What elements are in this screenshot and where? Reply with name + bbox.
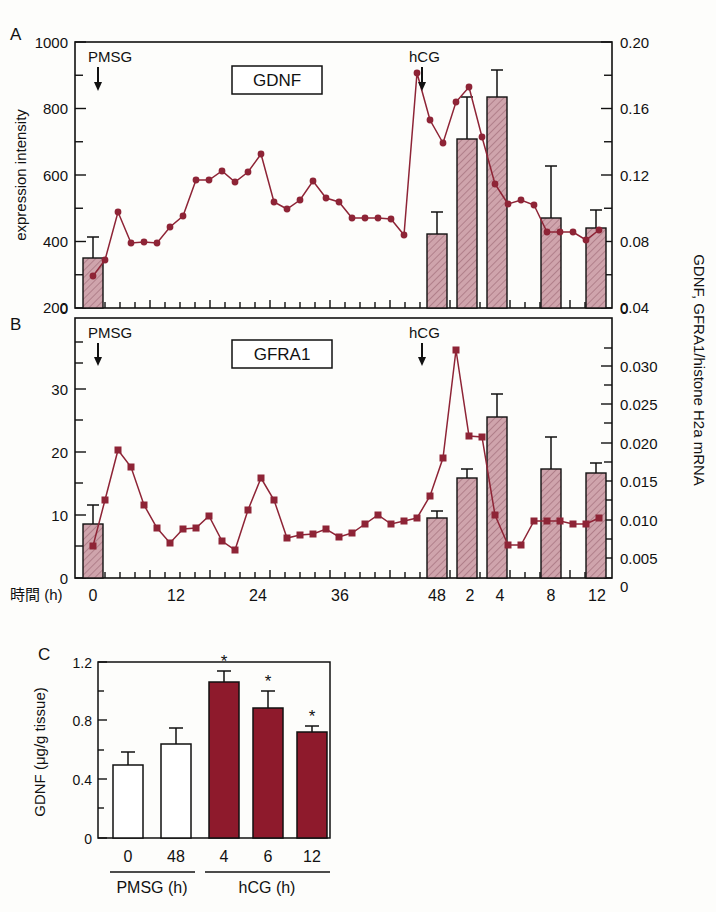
panel-b-ytick-30: 30 (51, 381, 68, 398)
xtick-12: 12 (167, 587, 185, 604)
panel-a-ytick-400: 400 (43, 233, 68, 250)
panel-c-group-label-pmsg: PMSG (h) (116, 879, 187, 896)
xtick-hcg8: 8 (547, 587, 556, 604)
panel-c-ytick-0: 0 (84, 831, 92, 847)
xtick-24: 24 (249, 587, 267, 604)
panel-c-xtick-12: 12 (303, 848, 321, 865)
panel-b-right-tick-0030: 0.030 (620, 358, 658, 375)
xtick-hcg12: 12 (588, 587, 606, 604)
panel-a-right-tick-zero: 0 (620, 300, 628, 317)
panel-c-xtick-0: 0 (124, 848, 133, 865)
panel-c-bar-pmsg-0 (113, 765, 143, 838)
panel-b-right-tick-0025: 0.025 (620, 396, 658, 413)
panel-c-bar-hcg-6 (253, 708, 283, 838)
panel-b-right-tick-0015: 0.015 (620, 473, 658, 490)
panel-c-xtick-6: 6 (264, 848, 273, 865)
panel-c-ytick-12: 1.2 (73, 655, 93, 671)
panel-c-xtick-4: 4 (220, 848, 229, 865)
shared-right-axis-title: GDNF, GFRA1/histone H2a mRNA (691, 254, 708, 486)
figure-root: A 1000 800 600 400 200 expression intens… (0, 0, 716, 912)
panel-b-bar-hcg4h (487, 417, 507, 578)
panel-b-hcg-label: hCG (409, 324, 440, 341)
panel-b-gene-label: GFRA1 (254, 345, 311, 364)
panel-c-bar-hcg-12 (297, 732, 327, 838)
panel-b-bar-hcg2h (457, 478, 477, 578)
panel-a-ytick-1000: 1000 (35, 34, 68, 51)
panel-b-bar-0h (83, 524, 103, 578)
panel-b-letter: B (10, 315, 21, 334)
panel-a-bar-hcg2h (457, 139, 477, 308)
panel-c-group-label-hcg: hCG (h) (239, 879, 296, 896)
panel-b-right-tick-0020: 0.020 (620, 435, 658, 452)
x-axis-title: 時間 (h) (10, 586, 63, 603)
xtick-36: 36 (331, 587, 349, 604)
panel-a-right-tick-020: 0.20 (620, 34, 649, 51)
panel-c-ytick-08: 0.8 (73, 713, 93, 729)
panel-b-ytick-0: 0 (60, 570, 68, 587)
panel-c-y-axis-title: GDNF (μg/g tissue) (31, 687, 48, 817)
panel-c-star-hcg-6: * (265, 672, 272, 691)
panel-b-pmsg-label: PMSG (88, 324, 132, 341)
panel-b-right-tick-0005: 0.005 (620, 550, 658, 567)
panel-a-letter: A (10, 25, 22, 44)
panel-b-ytick-20: 20 (51, 444, 68, 461)
panel-a-pmsg-label: PMSG (88, 48, 132, 65)
figure-svg: A 1000 800 600 400 200 expression intens… (0, 0, 716, 912)
panel-b-right-tick-zero: 0 (620, 578, 628, 595)
panel-a-right-tick-016: 0.16 (620, 100, 649, 117)
panel-b-ytick-10: 10 (51, 507, 68, 524)
panel-a-hcg-label: hCG (409, 48, 440, 65)
panel-a-right-tick-008: 0.08 (620, 233, 649, 250)
xtick-hcg4: 4 (496, 587, 505, 604)
panel-a-bar-hcg4h (487, 97, 507, 308)
panel-a-bar-48h (427, 234, 447, 308)
canvas-background (0, 0, 716, 912)
panel-c-star-hcg-4: * (221, 652, 228, 671)
panel-a-gene-label: GDNF (253, 71, 301, 90)
panel-b-right-tick-0010: 0.010 (620, 512, 658, 529)
panel-c-ytick-04: 0.4 (73, 772, 93, 788)
panel-c-letter: C (38, 645, 50, 664)
panel-a-ytick-800: 800 (43, 100, 68, 117)
panel-c-bar-hcg-4 (209, 682, 239, 838)
panel-c-star-hcg-12: * (309, 707, 316, 726)
panel-a-ytick-zero: 0 (60, 300, 68, 317)
panel-c-xtick-48: 48 (167, 848, 185, 865)
panel-a-ytick-600: 600 (43, 167, 68, 184)
panel-c-bar-pmsg-48 (161, 744, 191, 838)
panel-b-bar-48h (427, 518, 447, 578)
xtick-48: 48 (428, 587, 446, 604)
panel-a-left-axis-title: expression intensity (12, 109, 29, 241)
panel-a-right-tick-012: 0.12 (620, 167, 649, 184)
xtick-0: 0 (89, 587, 98, 604)
xtick-hcg2: 2 (466, 587, 475, 604)
